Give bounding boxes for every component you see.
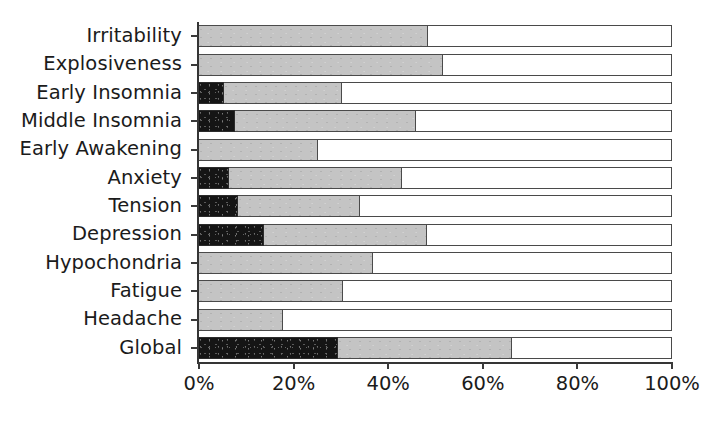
bar-row: [199, 110, 672, 132]
x-axis-tick-label: 100%: [644, 372, 700, 395]
bar-segment-severe: [199, 337, 338, 359]
bar-segment-moderate: [229, 167, 402, 189]
y-axis-tick: [191, 347, 198, 349]
category-label: Depression: [72, 220, 182, 248]
x-axis-tick: [293, 362, 295, 369]
category-axis-labels: IrritabilityExplosivenessEarly InsomniaM…: [0, 22, 190, 362]
x-axis-tick-label: 0%: [184, 372, 215, 395]
category-label: Hypochondria: [45, 249, 182, 277]
x-axis-tick: [387, 362, 389, 369]
y-axis-tick: [191, 149, 198, 151]
y-axis-tick: [191, 234, 198, 236]
x-axis-tick: [482, 362, 484, 369]
x-axis-tick: [671, 362, 673, 369]
bar-row: [199, 139, 672, 161]
bar-segment-severe: [199, 82, 224, 104]
stacked-bar-chart: IrritabilityExplosivenessEarly InsomniaM…: [0, 0, 715, 425]
bar-row: [199, 54, 672, 76]
bar-segment-severe: [199, 195, 238, 217]
bar-segment-moderate: [238, 195, 360, 217]
x-axis-tick-label: 40%: [367, 372, 410, 395]
category-label: Early Insomnia: [36, 79, 182, 107]
category-label: Headache: [83, 305, 182, 333]
x-axis-tick-labels: 0%20%40%60%80%100%: [199, 372, 672, 402]
bar-segment-moderate: [224, 82, 342, 104]
bar-row: [199, 82, 672, 104]
bar-row: [199, 25, 672, 47]
bar-segment-moderate: [235, 110, 416, 132]
y-axis-tick: [191, 120, 198, 122]
bar-segment-severe: [199, 167, 229, 189]
x-axis-line: [197, 362, 672, 364]
category-label: Middle Insomnia: [21, 107, 182, 135]
bar-row: [199, 195, 672, 217]
bar-segment-severe: [199, 110, 235, 132]
y-axis-tick: [191, 35, 198, 37]
plot-area: [199, 22, 672, 362]
bar-segment-moderate: [338, 337, 512, 359]
x-axis-tick: [576, 362, 578, 369]
category-label: Fatigue: [110, 277, 182, 305]
bar-segment-moderate: [199, 309, 283, 331]
y-axis-tick: [191, 177, 198, 179]
bar-segment-moderate: [199, 252, 373, 274]
bar-row: [199, 280, 672, 302]
bar-row: [199, 252, 672, 274]
y-axis-tick: [191, 262, 198, 264]
x-axis-tick-label: 20%: [272, 372, 315, 395]
bar-segment-moderate: [264, 224, 427, 246]
y-axis-tick: [191, 92, 198, 94]
category-label: Anxiety: [107, 164, 182, 192]
x-axis-tick-label: 60%: [461, 372, 504, 395]
category-label: Early Awakening: [20, 135, 183, 163]
y-axis-tick: [191, 64, 198, 66]
bar-row: [199, 224, 672, 246]
y-axis-tick: [191, 319, 198, 321]
bar-segment-severe: [199, 224, 264, 246]
category-label: Irritability: [87, 22, 182, 50]
category-label: Global: [119, 334, 182, 362]
bar-row: [199, 309, 672, 331]
x-axis-tick-label: 80%: [556, 372, 599, 395]
x-axis-tick: [198, 362, 200, 369]
category-label: Explosiveness: [43, 50, 182, 78]
y-axis-tick: [191, 205, 198, 207]
bar-segment-moderate: [199, 25, 428, 47]
bar-segment-moderate: [199, 54, 443, 76]
category-label: Tension: [108, 192, 182, 220]
y-axis-tick: [191, 290, 198, 292]
bar-segment-moderate: [199, 139, 318, 161]
bar-segment-moderate: [199, 280, 343, 302]
bar-row: [199, 337, 672, 359]
bar-row: [199, 167, 672, 189]
